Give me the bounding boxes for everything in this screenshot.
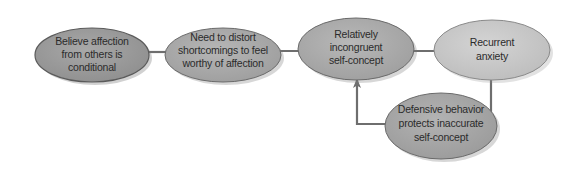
node-need-to-distort: Need to distort shortcomings to feel wor… <box>165 28 284 85</box>
node-label-line: Relatively <box>334 28 378 40</box>
node-label-line: worthy of affection <box>181 57 264 69</box>
node-label-line: Need to distort <box>190 31 256 43</box>
node-label-line: shortcomings to feel <box>178 44 268 56</box>
node-defensive-behavior: Defensive behavior protects inaccurate s… <box>385 93 500 162</box>
node-believe-affection-conditional: Believe affection from others is conditi… <box>35 28 152 85</box>
node-label-line: self-concept <box>414 131 468 143</box>
arrow-n5-n3 <box>357 80 386 124</box>
node-label-line: anxiety <box>476 50 509 62</box>
node-label-line: Believe affection <box>55 35 129 47</box>
node-label-line: conditional <box>68 61 116 73</box>
node-label-line: self-concept <box>329 54 383 66</box>
node-recurrent-anxiety: Recurrent anxiety <box>434 20 553 83</box>
node-label-line: incongruent <box>330 41 383 53</box>
node-label-line: from others is <box>62 48 123 60</box>
node-incongruent-self-concept: Relatively incongruent self-concept <box>298 18 417 83</box>
flow-diagram: Believe affection from others is conditi… <box>0 0 583 169</box>
node-label-line: Recurrent <box>470 36 515 48</box>
node-label-line: Defensive behavior <box>398 103 485 115</box>
node-label-line: protects inaccurate <box>399 117 484 129</box>
